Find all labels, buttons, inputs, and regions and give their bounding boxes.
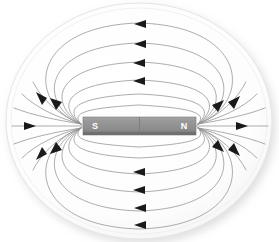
magnet-bottom-shadow [83, 132, 196, 135]
field-diagram-canvas: S N [0, 0, 279, 242]
bar-magnet-field-diagram: S N [0, 0, 279, 242]
north-pole-label: N [181, 121, 188, 131]
south-pole-label: S [92, 121, 98, 131]
bar-magnet[interactable]: S N [83, 117, 196, 135]
